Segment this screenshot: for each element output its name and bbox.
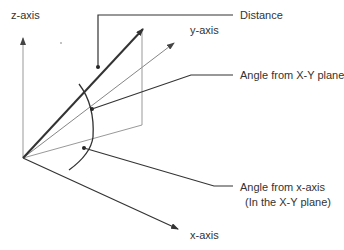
distance-label: Distance — [240, 9, 283, 21]
xy-projection-line — [23, 125, 142, 158]
x-axis-label: x-axis — [190, 229, 219, 241]
angle-x-leader — [84, 148, 233, 186]
distance-vector — [23, 29, 143, 158]
y-axis-label: y-axis — [190, 24, 219, 36]
angle-x-axis-label: Angle from x-axis — [240, 181, 325, 193]
angle-xy-leader — [92, 75, 233, 109]
z-axis-label: z-axis — [11, 9, 40, 21]
angle-x-axis-sublabel: (In the X-Y plane) — [245, 196, 331, 208]
distance-leader — [98, 15, 233, 67]
stray-mark — [60, 42, 62, 44]
angle-xy-plane-label: Angle from X-Y plane — [240, 69, 344, 81]
